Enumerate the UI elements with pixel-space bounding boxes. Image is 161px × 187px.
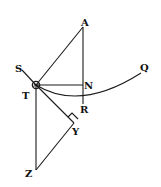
label-Q: Q xyxy=(140,62,149,73)
geometry-diagram: A S T N Q R Y Z xyxy=(0,0,161,187)
segment-ZY xyxy=(36,123,74,170)
label-N: N xyxy=(84,80,93,91)
label-Z: Z xyxy=(25,168,32,179)
label-Y: Y xyxy=(71,126,80,137)
label-A: A xyxy=(80,17,89,28)
label-T: T xyxy=(22,90,30,101)
label-S: S xyxy=(15,63,22,74)
segment-TA xyxy=(36,27,83,85)
label-R: R xyxy=(80,104,89,115)
